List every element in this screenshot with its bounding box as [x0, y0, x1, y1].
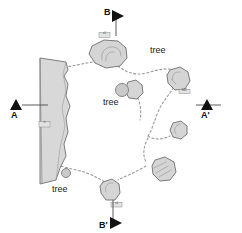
section-label-a: A: [11, 110, 18, 120]
arrow-b-prime: [110, 217, 122, 229]
rock-tag-south: c4: [111, 203, 122, 206]
site-plan-map: B A A' B' tree tree tree a1 st b12 c4: [0, 0, 242, 233]
arrow-a-prime: [201, 99, 213, 110]
section-label-b-prime: B': [99, 220, 108, 230]
rock-tag-east: b12: [179, 90, 190, 93]
tree-label-lower-left: tree: [52, 184, 68, 194]
rock-tag-north: a1: [99, 33, 110, 36]
boulder-southeast: [152, 157, 176, 181]
boulder-east-mid: [170, 121, 187, 139]
tree-label-upper-right: tree: [150, 45, 166, 55]
section-label-b: B: [104, 7, 111, 17]
arrow-a-left: [10, 99, 22, 110]
rock-tag-cliff-station: st: [39, 122, 50, 125]
trail-segment-east-down: [144, 138, 148, 162]
trail-segment-south-east: [118, 166, 146, 180]
arrow-b-top: [112, 10, 124, 22]
trail-segment-mid-east: [148, 136, 170, 139]
boulder-east-upper: [167, 67, 190, 90]
trail-segment-north-to-east: [118, 66, 174, 74]
tree-symbol-center: [116, 84, 129, 97]
boulder-south-center: [100, 179, 120, 200]
section-label-a-prime: A': [201, 110, 210, 120]
tree-label-center: tree: [103, 97, 119, 107]
tree-symbol-lower-left: [62, 169, 71, 178]
